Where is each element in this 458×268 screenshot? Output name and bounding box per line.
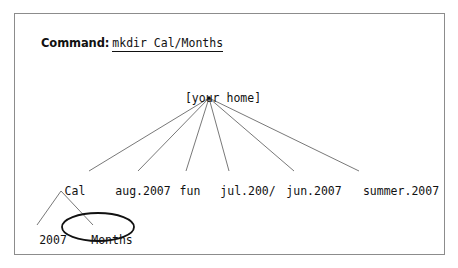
edge-root-jul	[209, 98, 229, 171]
command-text: mkdir Cal/Months	[112, 36, 223, 52]
tree-edges	[15, 14, 446, 256]
edge-root-jun	[209, 98, 294, 171]
tree-node-2007: 2007	[39, 235, 67, 247]
tree-node-months: Months	[91, 235, 133, 247]
root-edges	[89, 98, 359, 171]
edge-root-aug	[138, 98, 209, 171]
tree-node-fun: fun	[180, 186, 201, 198]
tree-node-summer-2007: summer.2007	[363, 186, 439, 198]
tree-node-aug-2007: aug.2007	[115, 186, 170, 198]
edge-root-fun	[186, 98, 209, 171]
edge-root-summer	[209, 98, 359, 171]
figure-frame: Command:mkdir Cal/Months [your home] Cal…	[14, 13, 445, 255]
command-label: Command:	[41, 36, 109, 50]
command-line: Command:mkdir Cal/Months	[41, 34, 223, 50]
tree-node-jul-2007: jul.200/	[220, 186, 275, 198]
tree-node-jun-2007: jun.2007	[286, 186, 341, 198]
tree-node-cal: Cal	[65, 186, 86, 198]
tree-node-your-home: [your home]	[185, 93, 261, 105]
edge-root-cal	[89, 98, 209, 171]
edge-cal-2007	[37, 191, 61, 225]
